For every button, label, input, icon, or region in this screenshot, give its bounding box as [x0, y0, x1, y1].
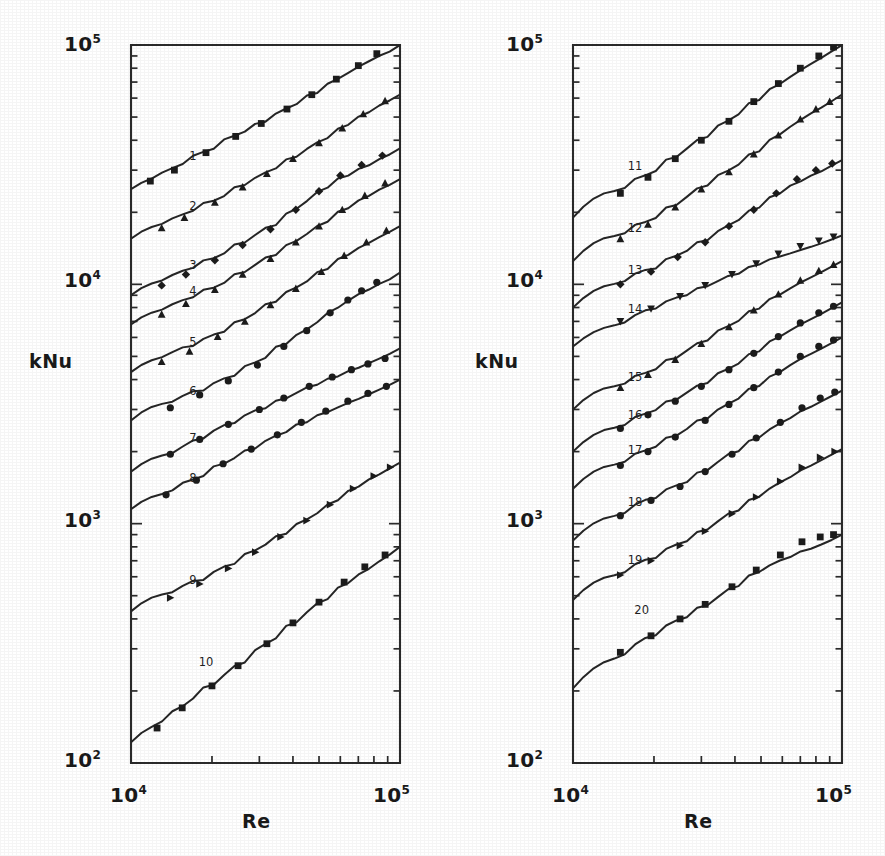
data-point — [196, 436, 203, 443]
data-point — [355, 62, 362, 69]
y-tick-label-1e2-left: 102 — [64, 750, 101, 770]
data-point — [815, 309, 822, 316]
data-point — [280, 394, 287, 401]
plot-canvas-left: 12345678910 — [0, 0, 443, 856]
data-point — [254, 361, 261, 368]
data-point — [750, 384, 757, 391]
data-point — [154, 725, 161, 732]
data-point — [387, 463, 394, 471]
data-point — [830, 303, 837, 310]
curve-label-9: 9 — [189, 573, 196, 587]
data-point — [235, 662, 242, 669]
data-point — [753, 493, 760, 501]
data-point — [167, 404, 174, 411]
y-tick-label-1e3-right: 103 — [506, 510, 543, 530]
data-point — [796, 276, 804, 283]
data-point — [676, 483, 683, 490]
data-series-4 — [131, 179, 400, 324]
data-point — [777, 552, 784, 559]
curve-label-19: 19 — [628, 553, 643, 567]
data-point — [644, 411, 651, 418]
data-point — [702, 601, 709, 608]
data-point — [322, 408, 329, 415]
data-point — [382, 226, 390, 233]
curve-label-3: 3 — [189, 258, 196, 272]
x-axis-title-right: Re — [684, 812, 713, 831]
data-point — [797, 65, 804, 72]
data-point — [797, 319, 804, 326]
data-point — [617, 425, 624, 432]
curve-label-5: 5 — [189, 335, 196, 349]
y-tick-label-1e5-left: 105 — [64, 34, 101, 54]
data-point — [750, 350, 757, 357]
data-point — [831, 388, 838, 395]
data-series-11 — [573, 44, 842, 218]
data-point — [147, 178, 154, 185]
data-point — [725, 401, 732, 408]
data-series-8 — [131, 380, 400, 510]
data-point — [361, 192, 369, 199]
figure-root: 12345678910 105 104 103 102 104 105 kNu … — [0, 0, 885, 856]
data-point — [381, 179, 389, 186]
curve-label-16: 16 — [628, 408, 643, 422]
y-tick-label-1e3-left: 103 — [64, 510, 101, 530]
curve-label-17: 17 — [628, 443, 643, 457]
curve-label-12: 12 — [628, 221, 643, 235]
curve-label-8: 8 — [189, 471, 196, 485]
data-series-14 — [573, 233, 842, 346]
data-point — [344, 296, 351, 303]
curve-label-4: 4 — [189, 284, 196, 298]
data-point — [371, 472, 378, 480]
data-point — [798, 404, 805, 411]
data-point — [677, 616, 684, 623]
curve-label-13: 13 — [628, 263, 643, 277]
data-point — [617, 190, 624, 197]
curve-label-6: 6 — [189, 384, 196, 398]
data-point — [728, 451, 735, 458]
y-tick-label-1e4-left: 104 — [64, 270, 101, 290]
data-point — [308, 91, 315, 98]
data-point — [364, 360, 371, 367]
curve-label-2: 2 — [189, 199, 196, 213]
data-point — [648, 632, 655, 639]
data-point — [831, 448, 838, 456]
data-point — [290, 619, 297, 626]
data-point — [617, 462, 624, 469]
curve-label-1: 1 — [189, 149, 196, 163]
data-point — [220, 460, 227, 467]
data-point — [348, 366, 355, 373]
data-point — [698, 137, 705, 144]
data-point — [341, 579, 348, 586]
data-point — [280, 343, 287, 350]
chart-panel-left: 12345678910 105 104 103 102 104 105 kNu … — [0, 0, 443, 856]
data-series-5 — [131, 226, 400, 372]
data-point — [817, 394, 824, 401]
data-point — [777, 419, 784, 426]
data-point — [815, 267, 823, 274]
data-point — [645, 174, 652, 181]
data-series-10 — [131, 547, 400, 742]
data-point — [373, 279, 380, 286]
data-point — [383, 383, 390, 390]
data-point — [225, 421, 232, 428]
data-point — [702, 417, 709, 424]
data-point — [329, 373, 336, 380]
data-point — [167, 451, 174, 458]
curve-label-7: 7 — [189, 431, 196, 445]
data-point — [263, 640, 270, 647]
data-point — [358, 287, 365, 294]
data-point — [274, 431, 281, 438]
data-point — [364, 390, 371, 397]
x-tick-label-1e5-right: 105 — [815, 785, 852, 805]
x-tick-label-1e4-left: 104 — [110, 785, 147, 805]
curve-label-10: 10 — [199, 655, 214, 669]
data-point — [799, 538, 806, 545]
y-axis-title-right: kNu — [475, 352, 519, 371]
data-point — [171, 167, 178, 174]
data-point — [284, 106, 291, 113]
data-point — [303, 327, 310, 334]
data-point — [225, 377, 232, 384]
y-tick-label-1e4-right: 104 — [506, 270, 543, 290]
data-point — [830, 336, 837, 343]
curve-label-20: 20 — [634, 603, 649, 617]
